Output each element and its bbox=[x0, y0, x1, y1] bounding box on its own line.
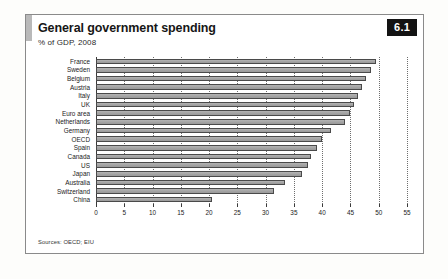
bar bbox=[96, 119, 345, 125]
category-label: Spain bbox=[74, 144, 90, 151]
axis-tick-label: 10 bbox=[149, 209, 156, 216]
bar bbox=[96, 128, 331, 134]
axis-tick-label: 25 bbox=[234, 209, 241, 216]
axis-tick-mark bbox=[350, 204, 351, 207]
axis-tick-label: 45 bbox=[347, 209, 354, 216]
source-note: Sources: OECD; EIU bbox=[38, 239, 94, 245]
bar bbox=[96, 84, 362, 90]
axis-tick-mark bbox=[124, 204, 125, 207]
category-label: OECD bbox=[72, 136, 90, 143]
chart-panel: General government spending % of GDP, 20… bbox=[25, 14, 424, 254]
axis-tick-mark bbox=[294, 204, 295, 207]
axis-tick-label: 35 bbox=[290, 209, 297, 216]
gridline bbox=[379, 57, 380, 204]
bar bbox=[96, 102, 354, 108]
axis-tick-mark bbox=[407, 204, 408, 207]
axis-tick-label: 0 bbox=[94, 209, 98, 216]
axis-tick-mark bbox=[209, 204, 210, 207]
bar bbox=[96, 59, 376, 65]
bar bbox=[96, 197, 212, 203]
bar bbox=[96, 154, 311, 160]
axis-tick-label: 50 bbox=[375, 209, 382, 216]
category-label: UK bbox=[81, 101, 90, 108]
page-title: General government spending bbox=[38, 21, 413, 36]
axis-tick-mark bbox=[96, 204, 97, 207]
axis-tick-mark bbox=[237, 204, 238, 207]
bar bbox=[96, 180, 285, 186]
category-label: Switzerland bbox=[57, 188, 90, 195]
page-background: General government spending % of GDP, 20… bbox=[0, 0, 448, 279]
category-label: Belgium bbox=[67, 75, 90, 82]
bar bbox=[96, 93, 358, 99]
category-label: Australia bbox=[65, 179, 90, 186]
axis-tick-mark bbox=[181, 204, 182, 207]
axis-tick-label: 30 bbox=[262, 209, 269, 216]
bar bbox=[96, 67, 371, 73]
axis-tick-label: 55 bbox=[403, 209, 410, 216]
category-label: Italy bbox=[78, 92, 90, 99]
bar bbox=[96, 136, 322, 142]
bar bbox=[96, 171, 302, 177]
category-label: Canada bbox=[68, 153, 90, 160]
axis-tick-mark bbox=[379, 204, 380, 207]
category-label: Austria bbox=[70, 84, 90, 91]
bar bbox=[96, 188, 274, 194]
bar bbox=[96, 110, 350, 116]
bar bbox=[96, 76, 366, 82]
figure-number-badge: 6.1 bbox=[387, 19, 417, 36]
value-axis: 0510152025303540455055 bbox=[96, 204, 407, 226]
gridline bbox=[407, 57, 408, 204]
category-label: Japan bbox=[73, 170, 90, 177]
category-label: France bbox=[70, 58, 90, 65]
category-label: China bbox=[73, 196, 90, 203]
category-label: US bbox=[81, 162, 90, 169]
axis-tick-mark bbox=[266, 204, 267, 207]
axis-tick-label: 5 bbox=[122, 209, 126, 216]
category-label: Sweden bbox=[67, 66, 90, 73]
accent-bar bbox=[26, 15, 32, 41]
axis-tick-mark bbox=[153, 204, 154, 207]
bar bbox=[96, 162, 308, 168]
axis-tick-label: 20 bbox=[206, 209, 213, 216]
bar bbox=[96, 145, 317, 151]
bar-chart: FranceSwedenBelgiumAustriaItalyUKEuro ar… bbox=[36, 57, 415, 232]
category-label: Netherlands bbox=[56, 118, 90, 125]
axis-tick-mark bbox=[322, 204, 323, 207]
axis-tick-label: 40 bbox=[319, 209, 326, 216]
plot-area bbox=[96, 57, 407, 204]
page-subtitle: % of GDP, 2008 bbox=[38, 38, 413, 47]
category-label: Germany bbox=[64, 127, 90, 134]
panel-header: General government spending % of GDP, 20… bbox=[38, 21, 413, 61]
axis-tick-label: 15 bbox=[177, 209, 184, 216]
category-label: Euro area bbox=[62, 110, 90, 117]
category-axis: FranceSwedenBelgiumAustriaItalyUKEuro ar… bbox=[36, 57, 93, 204]
